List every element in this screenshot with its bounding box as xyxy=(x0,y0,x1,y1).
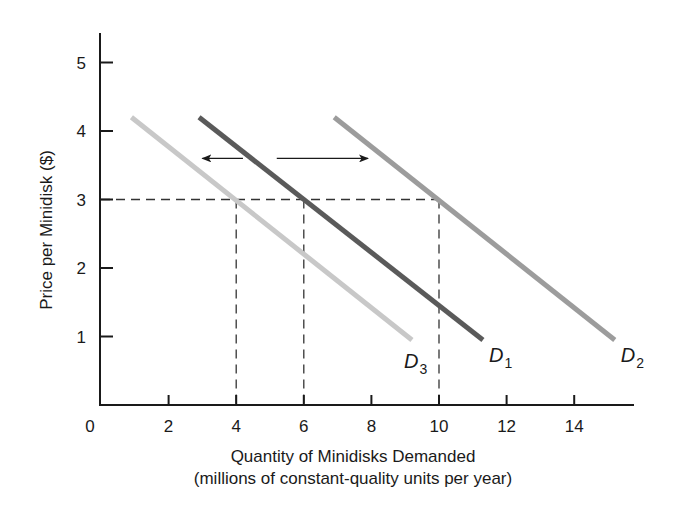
y-tick-label: 4 xyxy=(77,122,86,141)
curve-label-d3: D3 xyxy=(404,350,427,377)
y-axis-title: Price per Minidisk ($) xyxy=(37,150,56,310)
demand-shift-chart: 02468101214 12345 Price per Minidisk ($)… xyxy=(0,0,686,513)
y-tick-label: 1 xyxy=(77,328,86,347)
curve-label-d2: D2 xyxy=(621,344,644,371)
axes xyxy=(99,33,634,406)
demand-curve-d2 xyxy=(334,117,615,340)
y-tick-label: 3 xyxy=(77,191,86,210)
demand-curve-d1 xyxy=(199,117,483,340)
x-tick-label: 8 xyxy=(367,417,376,436)
x-tick-label: 6 xyxy=(299,417,308,436)
curve-label-d1: D1 xyxy=(489,344,512,371)
x-tick-label: 10 xyxy=(430,417,449,436)
demand-curves xyxy=(131,117,614,340)
x-tick-label: 0 xyxy=(85,417,94,436)
y-tick-label: 5 xyxy=(77,54,86,73)
x-axis-title: Quantity of Minidisks Demanded xyxy=(231,447,476,466)
demand-curve-d3 xyxy=(131,117,412,340)
x-tick-label: 14 xyxy=(565,417,584,436)
x-tick-label: 4 xyxy=(231,417,240,436)
curve-labels: D1D2D3 xyxy=(404,344,644,377)
y-axis-ticks: 12345 xyxy=(77,54,113,347)
x-tick-label: 12 xyxy=(497,417,516,436)
x-tick-label: 2 xyxy=(164,417,173,436)
x-axis-subtitle: (millions of constant-quality units per … xyxy=(194,469,512,488)
x-axis-ticks: 02468101214 xyxy=(85,395,583,436)
y-tick-label: 2 xyxy=(77,259,86,278)
